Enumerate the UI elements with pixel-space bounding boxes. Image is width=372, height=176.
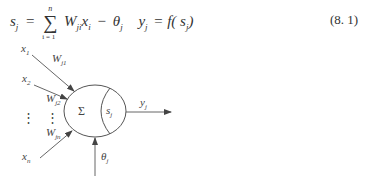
threshold-label: θj (101, 150, 108, 165)
neuron-model-figure: sj = n ∑ i = 1 Wjixi − θj yj = f( sj) (8… (0, 0, 372, 176)
sum-label: Σ (78, 104, 85, 118)
weight-label-1: Wj1 (52, 52, 67, 67)
activation-label: sj (106, 104, 112, 119)
weight-label-n: Wjn (46, 126, 61, 141)
ellipsis-weights: ⋮ (46, 110, 59, 125)
input-label-1: x1 (20, 42, 29, 57)
ellipsis-inputs: ⋮ (22, 110, 35, 125)
neuron-diagram: x1 Wj1 x2 Wj2 ⋮ ⋮ Wjn xn Σ sj yj θj (0, 0, 372, 176)
input-label-2: x2 (21, 72, 31, 87)
input-label-n: xn (21, 150, 31, 165)
neuron-body (64, 85, 126, 137)
weight-label-2: Wj2 (46, 92, 61, 107)
output-label: yj (139, 96, 147, 111)
